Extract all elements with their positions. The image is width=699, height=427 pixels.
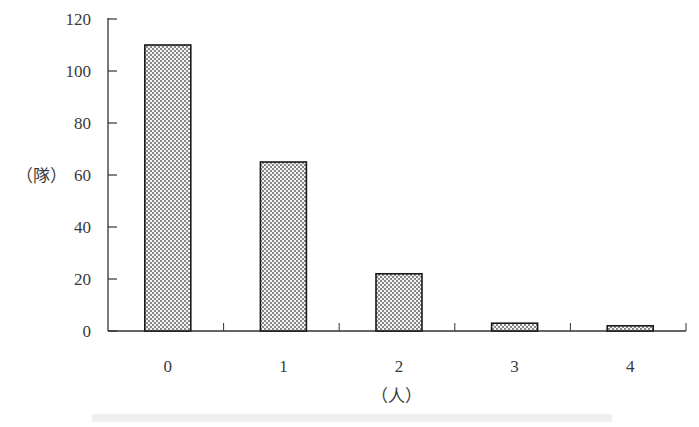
- bar-0: [145, 45, 191, 331]
- bar-chart: 020406080100120 01234 （隊） （人）: [0, 0, 699, 427]
- x-tick-label: 0: [164, 357, 173, 376]
- bar-3: [492, 323, 538, 331]
- y-tick-label: 40: [74, 218, 91, 237]
- bar-2: [376, 274, 422, 331]
- y-axis-title: （隊）: [16, 166, 67, 186]
- bars: [145, 45, 653, 331]
- x-axis-title: （人）: [371, 386, 422, 406]
- x-tick-label: 1: [279, 357, 288, 376]
- bar-4: [607, 326, 653, 331]
- y-tick-label: 60: [74, 166, 91, 185]
- y-axis: 020406080100120: [66, 10, 118, 341]
- x-tick-label: 4: [626, 357, 635, 376]
- y-tick-label: 120: [66, 10, 92, 29]
- y-tick-label: 100: [66, 62, 92, 81]
- bar-1: [260, 162, 306, 331]
- x-tick-label: 3: [510, 357, 519, 376]
- caption-faded: [92, 414, 612, 422]
- y-tick-label: 80: [74, 114, 91, 133]
- y-tick-label: 20: [74, 270, 91, 289]
- y-tick-label: 0: [83, 322, 92, 341]
- x-tick-label: 2: [395, 357, 404, 376]
